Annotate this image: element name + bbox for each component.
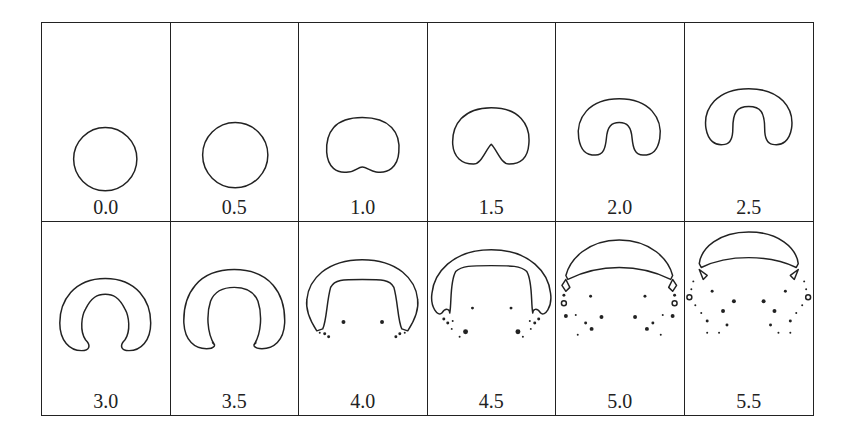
panel-5-5: 5.5 [685,222,814,415]
panel-2-0: 2.0 [556,23,685,222]
panel-2-5: 2.5 [685,23,814,222]
arch-shape-icon [428,222,556,415]
panel-3-0: 3.0 [42,222,171,415]
panel-5-0: 5.0 [556,222,685,415]
panel-0-5: 0.5 [171,23,300,222]
panel-label: 4.0 [299,391,427,411]
panel-0-0: 0.0 [42,23,171,222]
circle-shape-icon [171,23,299,221]
panel-1-0: 1.0 [299,23,428,222]
arch-shape-icon [299,222,427,415]
panel-label: 3.0 [42,391,170,411]
panel-label: 4.5 [428,391,556,411]
figure-grid: 0.0 0.5 1.0 1.5 2.0 2.5 3.0 [41,22,814,416]
panel-label: 0.0 [42,197,170,217]
crescent-shape-icon [171,222,299,415]
cap-shape-icon [556,222,684,415]
panel-label: 5.0 [556,391,684,411]
panel-4-5: 4.5 [428,222,557,415]
panel-label: 1.0 [299,197,427,217]
panel-3-5: 3.5 [171,222,300,415]
panel-4-0: 4.0 [299,222,428,415]
panel-label: 1.5 [428,197,556,217]
circle-shape-icon [42,23,170,221]
panel-1-5: 1.5 [428,23,557,222]
kidney-shape-icon [299,23,427,221]
horseshoe-shape-icon [685,23,814,221]
panel-label: 5.5 [685,391,814,411]
panel-label: 2.5 [685,197,814,217]
panel-label: 2.0 [556,197,684,217]
cap-shape-icon [685,222,814,415]
horseshoe-shape-icon [556,23,684,221]
bean-shape-icon [428,23,556,221]
panel-label: 0.5 [171,197,299,217]
crescent-shape-icon [42,222,170,415]
panel-label: 3.5 [171,391,299,411]
